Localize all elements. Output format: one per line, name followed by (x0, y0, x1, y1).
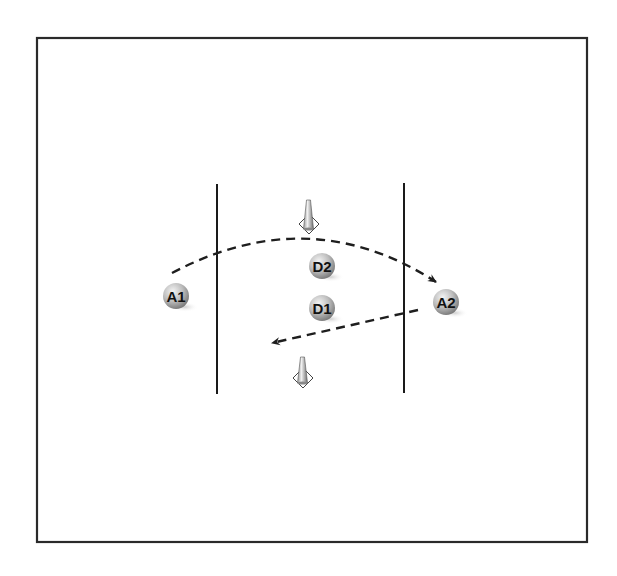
player-d2: D2 (309, 253, 344, 282)
player-label: D2 (312, 258, 331, 275)
cone-icon (293, 357, 313, 388)
pass-path-arrow (172, 239, 436, 282)
player-label: A2 (436, 294, 455, 311)
cone-icon (299, 200, 319, 234)
player-label: A1 (166, 288, 185, 305)
player-label: D1 (312, 300, 331, 317)
player-a2: A2 (433, 289, 468, 318)
run-path-arrow (272, 310, 418, 343)
drill-diagram: A1 D2 D1 A2 (0, 0, 617, 576)
player-a1: A1 (163, 283, 198, 312)
player-d1: D1 (309, 295, 344, 324)
field-frame (37, 38, 587, 542)
